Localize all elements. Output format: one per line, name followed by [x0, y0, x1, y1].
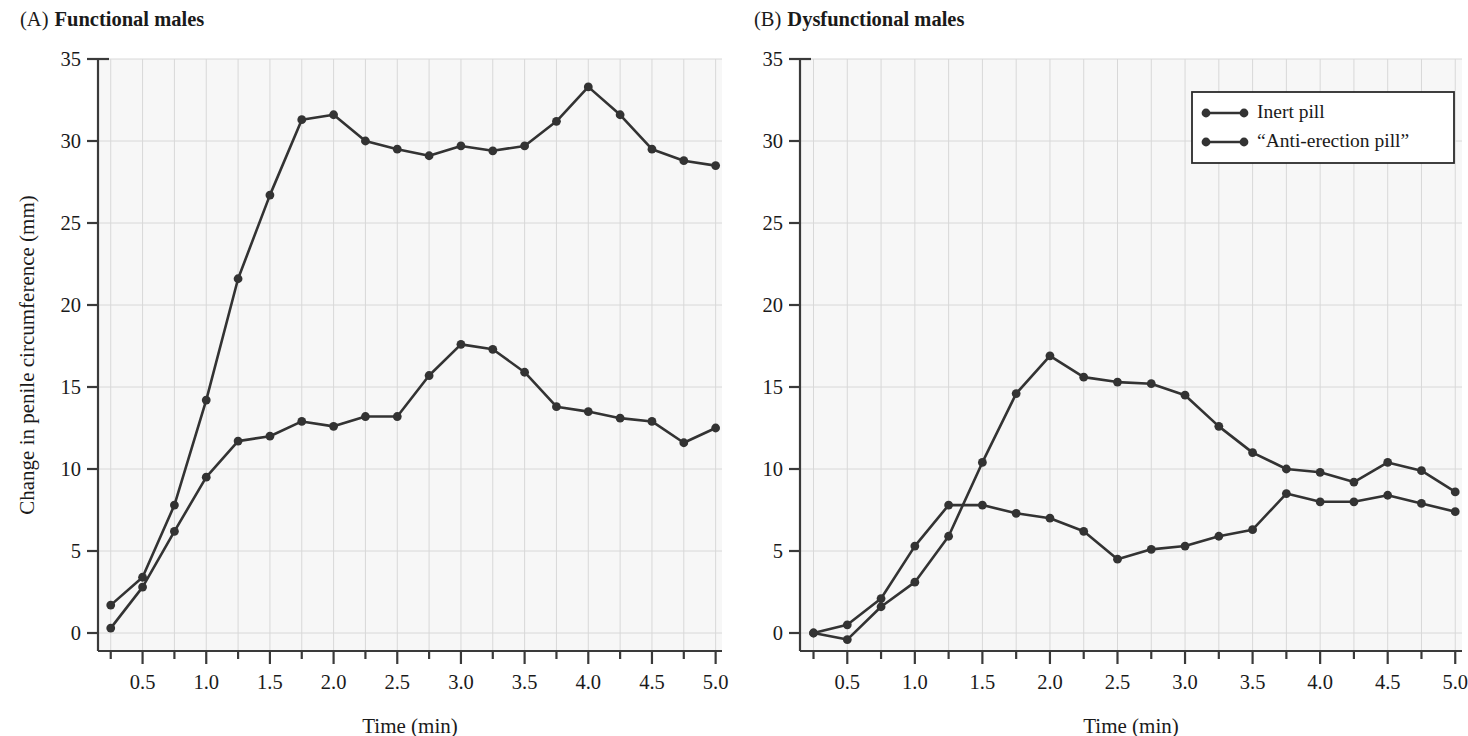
panel-b-plot: 051015202530350.51.01.52.02.53.03.54.04.…: [734, 0, 1468, 736]
x-tick-label: 0.5: [130, 671, 156, 693]
x-axis-title: Time (min): [362, 714, 457, 736]
y-tick-label: 15: [763, 376, 784, 398]
y-tick-label: 5: [773, 540, 783, 562]
x-tick-label: 4.0: [1307, 671, 1333, 693]
panel-a: (A)Functional males 051015202530350.51.0…: [0, 0, 734, 736]
x-tick-label: 3.0: [1172, 671, 1198, 693]
y-tick-label: 25: [763, 212, 784, 234]
y-tick-label: 10: [763, 458, 784, 480]
x-tick-label: 3.5: [512, 671, 538, 693]
figure-container: (A)Functional males 051015202530350.51.0…: [0, 0, 1468, 736]
panel-a-plot: 051015202530350.51.01.52.02.53.03.54.04.…: [0, 0, 734, 736]
x-tick-label: 2.0: [1037, 671, 1063, 693]
x-tick-label: 5.0: [703, 671, 729, 693]
y-tick-label: 25: [61, 212, 82, 234]
y-tick-label: 20: [763, 294, 784, 316]
x-tick-label: 1.0: [193, 671, 219, 693]
y-tick-label: 0: [773, 622, 783, 644]
x-axis-title: Time (min): [1083, 714, 1178, 736]
legend: Inert pill“Anti-erection pill”: [1192, 92, 1454, 163]
x-tick-label: 3.5: [1240, 671, 1266, 693]
x-tick-label: 1.0: [902, 671, 928, 693]
legend-label: Inert pill: [1257, 101, 1325, 122]
x-tick-label: 3.0: [448, 671, 474, 693]
x-tick-label: 4.5: [1375, 671, 1401, 693]
y-tick-label: 10: [61, 458, 82, 480]
y-tick-label: 30: [763, 130, 784, 152]
x-tick-label: 5.0: [1442, 671, 1468, 693]
y-tick-label: 5: [71, 540, 81, 562]
y-tick-label: 20: [61, 294, 82, 316]
y-tick-label: 15: [61, 376, 82, 398]
y-tick-label: 0: [71, 622, 81, 644]
legend-label: “Anti-erection pill”: [1257, 130, 1409, 151]
panel-b: (B)Dysfunctional males 051015202530350.5…: [734, 0, 1468, 736]
y-tick-label: 30: [61, 130, 82, 152]
y-tick-label: 35: [61, 48, 82, 70]
y-tick-label: 35: [763, 48, 784, 70]
x-tick-label: 4.0: [575, 671, 601, 693]
x-tick-label: 0.5: [834, 671, 860, 693]
x-tick-label: 4.5: [639, 671, 665, 693]
x-tick-label: 2.0: [321, 671, 347, 693]
x-tick-label: 1.5: [970, 671, 996, 693]
x-tick-label: 2.5: [384, 671, 410, 693]
x-tick-label: 1.5: [257, 671, 283, 693]
x-tick-label: 2.5: [1105, 671, 1131, 693]
y-axis-title: Change in penile circumference (mm): [15, 195, 39, 515]
